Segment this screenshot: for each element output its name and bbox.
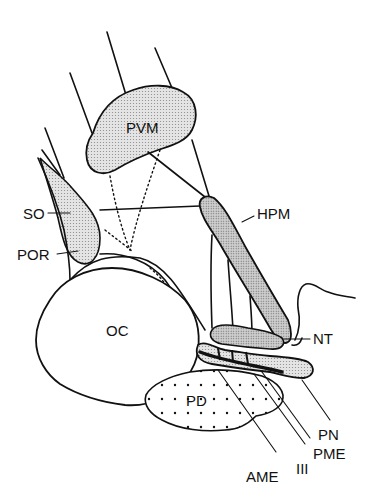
so-hpm-connection: [100, 206, 200, 210]
label-pme: PME: [313, 445, 346, 462]
label-pd: PD: [186, 392, 207, 409]
hpm-nucleus: HPM: [200, 196, 291, 343]
label-por: POR: [17, 246, 50, 263]
label-ame: AME: [246, 468, 279, 485]
label-nt: NT: [313, 330, 333, 347]
pvm-nucleus: PVM: [86, 86, 195, 173]
neuroanatomy-diagram: PVM SO POR HPM: [0, 0, 388, 497]
label-iii: III: [296, 460, 309, 477]
label-pvm: PVM: [126, 119, 159, 136]
pd-structure: PD: [145, 370, 283, 431]
label-pn: PN: [318, 426, 339, 443]
label-hpm: HPM: [257, 205, 290, 222]
label-so: SO: [23, 205, 45, 222]
label-oc: OC: [106, 322, 129, 339]
